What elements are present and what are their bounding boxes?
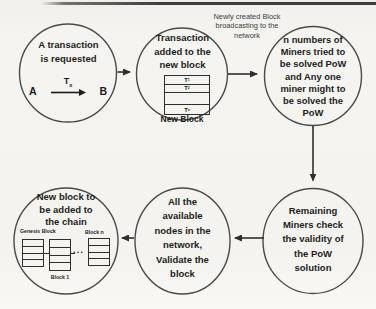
request-text: A transaction is requested [21,38,116,65]
receiver-label: B [99,86,107,97]
genesis-block [22,239,44,267]
block-stripe-line [50,247,70,255]
block-stripe-line [23,246,43,253]
genesis-block-label: Genesis Block [20,228,56,234]
block-stripe-line [89,252,109,259]
validity-check-text: Remaining Miners check the validity of t… [264,204,362,275]
table-row-t2: T2 [165,85,209,94]
new-block-table: T1 T2 Tn [164,75,210,115]
sender-label: A [29,86,37,97]
blockchain-diagram: Genesis Block Block n Block 1 ... [18,228,116,284]
block-1-label: Block 1 [49,274,71,280]
block-stripe-line [89,258,109,265]
block-stripe-line [23,259,43,266]
tx-arrow-icon [50,88,86,97]
add-to-chain-text: New block to be added to the chain [17,191,115,229]
new-block-caption: New Block [147,114,217,124]
tx-arrow-group: Tx [50,77,86,97]
block-stripe-line [50,240,70,247]
block-stripe-line [89,245,109,252]
mining-text: n numbers of Miners tried to be solved P… [264,34,362,119]
add-to-block-text: Transaction added to the new block [137,31,228,72]
table-row-empty [165,93,209,104]
table-row-t1: T1 [165,76,209,85]
block-n-label: Block n [85,229,104,235]
block-stripe-line [50,262,70,270]
blockchain-flow-diagram: Newly created Block broadcasting to the … [0,0,376,309]
tx-label: Tx [64,77,73,86]
block-stripe-line [23,253,43,260]
block-1 [49,239,71,271]
block-stripe-line [50,255,70,263]
table-row-tn: Tn [165,104,209,114]
network-validation-text: All the available nodes in the network, … [136,195,229,281]
transaction-a-to-b: A Tx B [29,77,107,97]
chain-ellipsis: ... [73,245,84,255]
block-n [88,238,110,266]
